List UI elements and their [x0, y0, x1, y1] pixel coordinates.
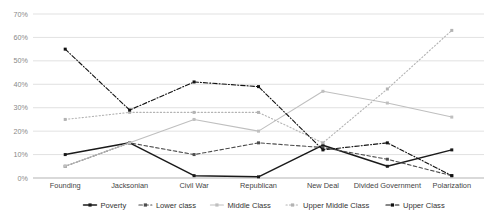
- series-line: [65, 91, 452, 166]
- x-axis-tick-label: Founding: [50, 181, 81, 190]
- y-axis-tick-label: 50%: [14, 56, 29, 65]
- y-axis-tick-label: 70%: [14, 10, 29, 19]
- series-marker: [193, 153, 196, 156]
- series-marker: [257, 111, 260, 114]
- series-marker: [193, 174, 196, 177]
- series-marker: [450, 148, 453, 151]
- legend-label[interactable]: Poverty: [101, 201, 127, 210]
- series-marker: [128, 109, 131, 112]
- legend-marker-icon: [88, 203, 91, 206]
- series-marker: [64, 118, 67, 121]
- series-marker: [450, 174, 453, 177]
- series-marker: [193, 80, 196, 83]
- y-axis-tick-label: 0%: [18, 174, 29, 183]
- series-marker: [257, 141, 260, 144]
- legend-marker-icon: [215, 203, 218, 206]
- series-marker: [64, 48, 67, 51]
- y-axis-tick-label: 40%: [14, 80, 29, 89]
- legend-label[interactable]: Lower class: [156, 201, 196, 210]
- legend-label[interactable]: Upper Class: [403, 201, 445, 210]
- legend-marker-icon: [144, 203, 147, 206]
- y-axis-tick-label: 20%: [14, 127, 29, 136]
- series-marker: [257, 85, 260, 88]
- series-marker: [128, 141, 131, 144]
- series-line: [65, 143, 452, 176]
- series-marker: [386, 141, 389, 144]
- line-chart: 0%10%20%30%40%50%60%70%FoundingJacksonia…: [0, 0, 491, 216]
- series-marker: [386, 158, 389, 161]
- legend-marker-icon: [291, 203, 294, 206]
- series-marker: [386, 87, 389, 90]
- chart-canvas: 0%10%20%30%40%50%60%70%FoundingJacksonia…: [0, 0, 491, 216]
- series-marker: [450, 29, 453, 32]
- series-marker: [257, 175, 260, 178]
- series-marker: [386, 102, 389, 105]
- series-marker: [193, 118, 196, 121]
- series-marker: [193, 111, 196, 114]
- y-axis-tick-label: 30%: [14, 103, 29, 112]
- x-axis-tick-label: Polarization: [432, 181, 471, 190]
- series-marker: [257, 130, 260, 133]
- legend-label[interactable]: Middle Class: [227, 201, 271, 210]
- series-marker: [64, 153, 67, 156]
- legend-marker-icon: [391, 203, 394, 206]
- y-axis-tick-label: 60%: [14, 33, 29, 42]
- x-axis-tick-label: Republican: [240, 181, 277, 190]
- x-axis-tick-label: New Deal: [307, 181, 339, 190]
- series-marker: [386, 165, 389, 168]
- series-marker: [450, 116, 453, 119]
- x-axis-tick-label: Jacksonian: [111, 181, 148, 190]
- plot-area: 0%10%20%30%40%50%60%70%FoundingJacksonia…: [0, 0, 491, 216]
- legend-label[interactable]: Upper Middle Class: [303, 201, 369, 210]
- series-line: [65, 143, 452, 177]
- series-marker: [321, 90, 324, 93]
- x-axis-tick-label: Divided Government: [354, 181, 421, 190]
- x-axis-tick-label: Civil War: [179, 181, 209, 190]
- y-axis-tick-label: 10%: [14, 150, 29, 159]
- series-marker: [64, 165, 67, 168]
- series-marker: [321, 141, 324, 144]
- series-marker: [321, 148, 324, 151]
